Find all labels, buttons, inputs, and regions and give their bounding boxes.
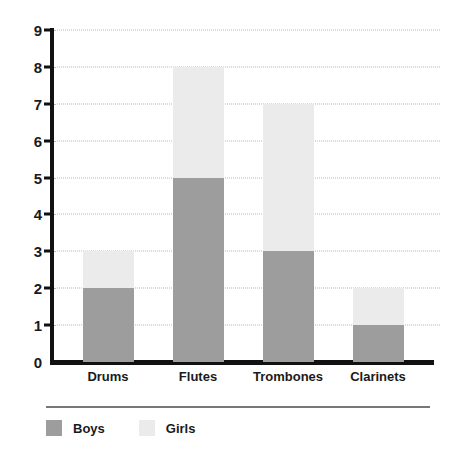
bar-segment-boys bbox=[263, 251, 314, 362]
y-tick-label: 3 bbox=[0, 244, 42, 259]
legend-swatch-boys bbox=[46, 420, 62, 436]
y-tick-label: 4 bbox=[0, 207, 42, 222]
y-tick-mark bbox=[44, 65, 51, 68]
category-label-drums: Drums bbox=[87, 369, 128, 384]
legend-item-girls: Girls bbox=[139, 420, 196, 436]
category-label-flutes: Flutes bbox=[179, 369, 217, 384]
bar-flutes bbox=[173, 30, 224, 362]
bar-segment-boys bbox=[353, 325, 404, 362]
y-tick-mark bbox=[44, 176, 51, 179]
legend-item-boys: Boys bbox=[46, 420, 105, 436]
y-tick-mark bbox=[44, 324, 51, 327]
y-tick-mark bbox=[44, 250, 51, 253]
y-tick-mark bbox=[44, 29, 51, 32]
category-label-clarinets: Clarinets bbox=[350, 369, 406, 384]
y-axis-line bbox=[50, 28, 54, 364]
y-tick-label: 9 bbox=[0, 23, 42, 38]
bar-segment-boys bbox=[173, 178, 224, 362]
category-label-trombones: Trombones bbox=[253, 369, 323, 384]
y-tick-label: 5 bbox=[0, 170, 42, 185]
stacked-bar-chart: 0123456789 DrumsFlutesTrombonesClarinets… bbox=[0, 0, 454, 459]
bar-trombones bbox=[263, 30, 314, 362]
y-tick-label: 6 bbox=[0, 133, 42, 148]
bar-segment-girls bbox=[83, 251, 134, 288]
legend-label-boys: Boys bbox=[73, 421, 105, 436]
legend-swatch-girls bbox=[139, 420, 155, 436]
legend-label-girls: Girls bbox=[166, 421, 196, 436]
y-tick-mark bbox=[44, 213, 51, 216]
y-tick-mark bbox=[44, 102, 51, 105]
bar-segment-boys bbox=[83, 288, 134, 362]
bar-segment-girls bbox=[173, 67, 224, 178]
chart-legend: BoysGirls bbox=[46, 420, 229, 436]
bar-segment-girls bbox=[263, 104, 314, 252]
y-tick-mark bbox=[44, 287, 51, 290]
y-tick-label: 7 bbox=[0, 96, 42, 111]
bar-clarinets bbox=[353, 30, 404, 362]
y-tick-label: 8 bbox=[0, 59, 42, 74]
bar-drums bbox=[83, 30, 134, 362]
y-tick-label: 2 bbox=[0, 281, 42, 296]
y-tick-label: 1 bbox=[0, 318, 42, 333]
y-tick-mark bbox=[44, 139, 51, 142]
y-tick-label: 0 bbox=[0, 355, 42, 370]
bar-segment-girls bbox=[353, 288, 404, 325]
legend-separator-rule bbox=[46, 406, 430, 408]
